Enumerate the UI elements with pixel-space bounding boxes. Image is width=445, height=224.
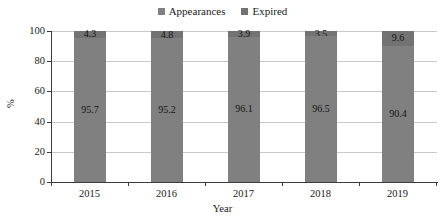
chart-legend: Appearances Expired xyxy=(0,6,445,17)
xtick-label-2017: 2017 xyxy=(233,188,254,199)
legend-label-expired: Expired xyxy=(252,6,287,17)
bar-group-2015[interactable]: 4.3 95.7 xyxy=(74,31,106,182)
bar-group-2019[interactable]: 9.6 90.4 xyxy=(382,31,414,182)
y-axis-title: % xyxy=(5,99,16,108)
ytick-label-20: 20 xyxy=(35,147,46,158)
ytick-label-0: 0 xyxy=(40,177,45,188)
xtick-label-2016: 2016 xyxy=(156,188,177,199)
stacked-bar-chart: Appearances Expired 100 80 60 40 20 xyxy=(0,0,445,224)
bar-label-appearances-2019: 90.4 xyxy=(389,109,407,119)
xtick-label-2015: 2015 xyxy=(79,188,100,199)
y-axis-line xyxy=(51,31,52,183)
bar-label-expired-2019: 9.6 xyxy=(392,33,405,43)
ytick-label-60: 60 xyxy=(35,86,46,97)
xtick-mark-2 xyxy=(205,182,206,186)
bar-label-appearances-2015: 95.7 xyxy=(81,105,99,115)
x-axis-title: Year xyxy=(0,203,445,214)
bars-layer: 4.3 95.7 4.8 95.2 3.9 96.1 3.5 xyxy=(51,31,437,182)
xtick-mark-1 xyxy=(128,182,129,186)
bar-segment-expired-2019[interactable]: 9.6 xyxy=(382,31,414,46)
bar-group-2017[interactable]: 3.9 96.1 xyxy=(228,31,260,182)
bar-group-2018[interactable]: 3.5 96.5 xyxy=(305,31,337,182)
xtick-mark-4 xyxy=(359,182,360,186)
bar-segment-appearances-2017[interactable]: 96.1 xyxy=(228,37,260,182)
bar-label-appearances-2016: 95.2 xyxy=(158,105,176,115)
xtick-mark-3 xyxy=(282,182,283,186)
ytick-label-100: 100 xyxy=(29,26,45,37)
xtick-mark-5 xyxy=(436,182,437,186)
legend-label-appearances: Appearances xyxy=(169,6,226,17)
legend-swatch-appearances-icon xyxy=(158,8,165,15)
xtick-label-2019: 2019 xyxy=(387,188,408,199)
xtick-mark-0 xyxy=(51,182,52,186)
legend-swatch-expired-icon xyxy=(241,8,248,15)
xtick-label-2018: 2018 xyxy=(310,188,331,199)
bar-label-appearances-2018: 96.5 xyxy=(312,104,330,114)
ytick-label-40: 40 xyxy=(35,116,46,127)
ytick-label-80: 80 xyxy=(35,56,46,67)
bar-segment-appearances-2018[interactable]: 96.5 xyxy=(305,36,337,182)
legend-item-expired: Expired xyxy=(241,6,287,17)
bar-segment-appearances-2016[interactable]: 95.2 xyxy=(151,38,183,182)
bar-segment-expired-2016[interactable]: 4.8 xyxy=(151,31,183,38)
bar-label-appearances-2017: 96.1 xyxy=(235,104,253,114)
x-axis-line xyxy=(51,182,438,183)
bar-segment-appearances-2019[interactable]: 90.4 xyxy=(382,46,414,183)
bar-group-2016[interactable]: 4.8 95.2 xyxy=(151,31,183,182)
legend-item-appearances: Appearances xyxy=(158,6,226,17)
bar-segment-appearances-2015[interactable]: 95.7 xyxy=(74,38,106,183)
